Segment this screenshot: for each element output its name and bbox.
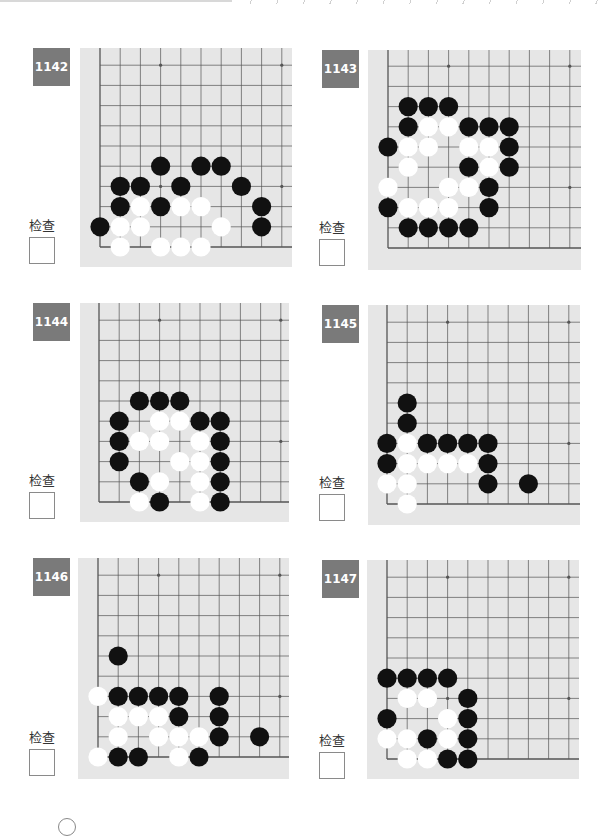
black-stone <box>109 646 128 665</box>
black-stone <box>378 198 397 217</box>
black-stone <box>479 198 498 217</box>
white-stone <box>438 729 457 748</box>
black-stone <box>151 157 170 176</box>
white-stone <box>111 237 130 256</box>
white-stone <box>131 197 150 216</box>
white-stone <box>190 492 209 511</box>
star-point-icon <box>446 697 449 700</box>
black-stone <box>211 412 230 431</box>
check-box[interactable] <box>319 239 345 266</box>
white-stone <box>459 178 478 197</box>
white-stone <box>189 727 208 746</box>
black-stone <box>478 434 497 453</box>
white-stone <box>109 707 128 726</box>
black-stone <box>419 97 438 116</box>
star-point-icon <box>278 695 281 698</box>
white-stone <box>150 432 169 451</box>
black-stone <box>479 117 498 136</box>
go-board <box>78 558 289 779</box>
go-board-grid <box>78 558 289 779</box>
white-stone <box>88 687 107 706</box>
black-stone <box>459 117 478 136</box>
black-stone <box>479 178 498 197</box>
black-stone <box>129 687 148 706</box>
black-stone <box>418 669 437 688</box>
check-box[interactable] <box>29 492 55 519</box>
check-label: 检查 <box>312 217 352 236</box>
check-box[interactable] <box>319 752 345 779</box>
black-stone <box>111 197 130 216</box>
black-stone <box>90 217 109 236</box>
black-stone <box>458 749 477 768</box>
problem-number-badge: 1145 <box>322 305 359 343</box>
black-stone <box>130 391 149 410</box>
black-stone <box>500 137 519 156</box>
check-box[interactable] <box>319 494 345 521</box>
check-label: 检查 <box>312 472 352 491</box>
white-stone <box>111 217 130 236</box>
white-stone <box>398 729 417 748</box>
black-stone <box>458 709 477 728</box>
black-stone <box>189 747 208 766</box>
white-stone <box>418 689 437 708</box>
black-stone <box>419 218 438 237</box>
black-stone <box>398 669 417 688</box>
star-point-icon <box>278 574 281 577</box>
black-stone <box>377 669 396 688</box>
white-stone <box>149 727 168 746</box>
star-point-icon <box>447 65 450 68</box>
black-stone <box>149 687 168 706</box>
check-box[interactable] <box>29 749 55 776</box>
white-stone <box>171 197 190 216</box>
white-stone <box>212 217 231 236</box>
black-stone <box>150 391 169 410</box>
black-stone <box>438 749 457 768</box>
problem-number-badge: 1146 <box>33 558 70 596</box>
black-stone <box>131 177 150 196</box>
white-stone <box>419 137 438 156</box>
go-board <box>80 48 292 267</box>
white-stone <box>419 198 438 217</box>
white-stone <box>191 197 210 216</box>
star-point-icon <box>567 576 570 579</box>
white-stone <box>419 117 438 136</box>
black-stone <box>211 472 230 491</box>
white-stone <box>439 198 458 217</box>
white-stone <box>378 178 397 197</box>
black-stone <box>210 707 229 726</box>
white-stone <box>399 158 418 177</box>
black-stone <box>399 117 418 136</box>
black-stone <box>458 729 477 748</box>
star-point-icon <box>279 319 282 322</box>
check-box[interactable] <box>29 237 55 264</box>
star-point-icon <box>568 186 571 189</box>
black-stone <box>439 218 458 237</box>
white-stone <box>151 237 170 256</box>
black-stone <box>211 432 230 451</box>
black-stone <box>151 197 170 216</box>
black-stone <box>398 414 417 433</box>
star-point-icon <box>280 185 283 188</box>
black-stone <box>478 454 497 473</box>
page-number-circle-icon <box>58 818 76 836</box>
check-label: 检查 <box>312 730 352 749</box>
white-stone <box>170 452 189 471</box>
go-board-grid <box>80 48 292 267</box>
white-stone <box>169 747 188 766</box>
black-stone <box>110 432 129 451</box>
black-stone <box>378 137 397 156</box>
black-stone <box>110 452 129 471</box>
white-stone <box>190 472 209 491</box>
go-board-grid <box>367 560 579 779</box>
star-point-icon <box>279 440 282 443</box>
white-stone <box>439 117 458 136</box>
black-stone <box>211 492 230 511</box>
black-stone <box>438 669 457 688</box>
star-point-icon <box>158 319 161 322</box>
go-board <box>368 50 581 270</box>
black-stone <box>399 97 418 116</box>
white-stone <box>398 749 417 768</box>
black-stone <box>110 412 129 431</box>
black-stone <box>170 391 189 410</box>
black-stone <box>191 157 210 176</box>
